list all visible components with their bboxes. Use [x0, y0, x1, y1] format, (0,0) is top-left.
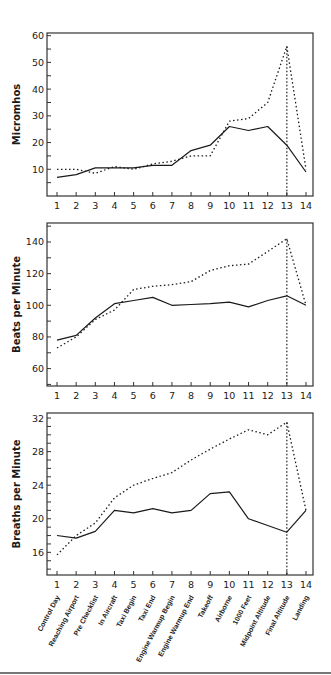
x-tick-label: 12 [262, 579, 274, 590]
x-tick-label: 8 [188, 200, 194, 211]
y-tick-label: 100 [26, 300, 44, 311]
x-category-label: In Aircraft [97, 594, 119, 627]
y-tick-label: 28 [32, 446, 44, 457]
x-tick-label: 6 [150, 390, 156, 401]
x-tick-label: 1 [54, 579, 60, 590]
x-tick-label: 14 [300, 390, 312, 401]
x-tick-label: 5 [131, 200, 137, 211]
x-tick-label: 2 [73, 579, 79, 590]
figure: 102030405060Micromhos1234567891011121314… [0, 0, 331, 675]
x-tick-label: 4 [111, 200, 117, 211]
y-tick-label: 20 [32, 137, 44, 148]
x-tick-label: 3 [92, 579, 98, 590]
x-tick-label: 5 [131, 390, 137, 401]
y-tick-label: 10 [32, 164, 44, 175]
y-tick-label: 60 [32, 363, 44, 374]
x-tick-label: 14 [300, 200, 312, 211]
chart-panel-3: 1620242832Breaths per Minute123456789101… [11, 413, 313, 664]
x-tick-label: 1 [54, 390, 60, 401]
x-category-label: Engine Warmup End [157, 594, 196, 658]
x-tick-label: 2 [73, 200, 79, 211]
series-dotted-line [57, 239, 306, 348]
x-tick-label: 3 [92, 390, 98, 401]
x-category-label: Taxi End [137, 594, 157, 623]
x-category-label: Airborne [213, 594, 233, 623]
x-tick-label: 3 [92, 200, 98, 211]
x-category-label: Landing [291, 594, 311, 622]
x-category-label: Takeoff [196, 594, 214, 619]
series-dotted-line [57, 422, 306, 555]
plot-frame [47, 413, 313, 575]
plot-frame [47, 33, 313, 196]
series-solid-line [57, 492, 306, 538]
bottom-divider [0, 672, 331, 674]
x-tick-label: 10 [223, 200, 235, 211]
x-tick-label: 6 [150, 579, 156, 590]
x-tick-label: 13 [281, 200, 293, 211]
x-tick-label: 13 [281, 390, 293, 401]
x-tick-label: 10 [223, 579, 235, 590]
x-tick-label: 11 [242, 390, 254, 401]
x-tick-label: 11 [242, 579, 254, 590]
x-tick-label: 12 [262, 390, 274, 401]
x-tick-label: 7 [169, 390, 175, 401]
y-tick-label: 60 [32, 30, 44, 41]
y-tick-label: 80 [32, 331, 44, 342]
series-solid-line [57, 127, 306, 178]
x-tick-label: 1 [54, 200, 60, 211]
y-tick-label: 16 [32, 547, 44, 558]
x-tick-label: 8 [188, 579, 194, 590]
y-tick-label: 20 [32, 513, 44, 524]
x-tick-label: 14 [300, 579, 312, 590]
x-tick-label: 9 [207, 390, 213, 401]
chart-panel-1: 102030405060Micromhos1234567891011121314 [11, 30, 313, 211]
y-tick-label: 50 [32, 57, 44, 68]
y-axis-title: Breaths per Minute [11, 439, 22, 548]
series-dotted-line [57, 46, 306, 173]
chart-panel-2: 6080100120140Beats per Minute12345678910… [11, 223, 313, 401]
y-tick-label: 40 [32, 84, 44, 95]
y-tick-label: 32 [32, 413, 44, 424]
y-tick-label: 24 [32, 480, 44, 491]
x-tick-label: 4 [111, 579, 117, 590]
y-axis-title: Beats per Minute [11, 256, 22, 353]
x-tick-label: 9 [207, 579, 213, 590]
y-axis-title: Micromhos [11, 84, 22, 146]
y-tick-label: 30 [32, 110, 44, 121]
x-tick-label: 9 [207, 200, 213, 211]
x-tick-label: 5 [131, 579, 137, 590]
x-tick-label: 11 [242, 200, 254, 211]
x-tick-label: 13 [281, 579, 293, 590]
series-solid-line [57, 296, 306, 340]
y-tick-label: 120 [26, 268, 44, 279]
x-tick-label: 8 [188, 390, 194, 401]
y-tick-label: 140 [26, 236, 44, 247]
x-tick-label: 7 [169, 200, 175, 211]
x-category-label: Taxi Begin [115, 594, 138, 629]
x-tick-label: 6 [150, 200, 156, 211]
x-category-label: 1000 Feet [231, 594, 252, 626]
x-tick-label: 4 [111, 390, 117, 401]
x-tick-label: 7 [169, 579, 175, 590]
x-tick-label: 10 [223, 390, 235, 401]
x-tick-label: 12 [262, 200, 274, 211]
x-tick-label: 2 [73, 390, 79, 401]
